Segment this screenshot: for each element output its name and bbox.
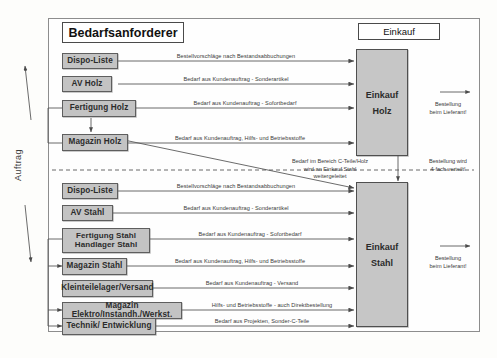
box-einkauf-stahl-line1: Einkauf	[366, 242, 399, 252]
page-title-bedarfsanforderer: Bedarfsanforderer	[62, 22, 184, 43]
node-magazin-elektro-instandhaltung[interactable]: Magazin Elektro/Instandh./Werkst.	[62, 302, 182, 319]
box-einkauf-holz-line2: Holz	[373, 106, 392, 116]
output-label-stahl-line2: beim Lieferant!	[429, 263, 466, 271]
output-label-holz: Bestellung beim Lieferant!	[429, 101, 466, 116]
edge-label-holz-1: Bestellvorschläge nach Bestandsabbuchung…	[177, 53, 295, 59]
divider-note-forwarding: Bedarf im Bereich C-Teile/Holz wird an E…	[292, 158, 368, 181]
distribution-line2: 4-fach verteilt!	[429, 166, 467, 174]
distribution-line1: Bestellung wird	[429, 158, 467, 166]
node-fertigung-holz[interactable]: Fertigung Holz	[62, 100, 136, 117]
edge-label-stahl-4: Bedarf aus Kundenauftrag, Hilfs- und Bet…	[175, 258, 305, 264]
edge-label-stahl-3: Bedarf aus Kundenauftrag - Sofortbedarf	[198, 231, 301, 237]
node-dispo-liste-holz[interactable]: Dispo-Liste	[62, 53, 118, 69]
node-av-holz[interactable]: AV Holz	[62, 76, 112, 92]
edge-label-holz-4: Bedarf aus Kundenauftrag, Hilfs- und Bet…	[175, 135, 305, 141]
node-technik-entwicklung[interactable]: Technik/ Entwicklung	[62, 318, 156, 335]
output-label-holz-line2: beim Lieferant!	[429, 109, 466, 117]
auftrag-axis-label: Auftrag	[13, 149, 23, 181]
page-title-einkauf: Einkauf	[358, 23, 440, 40]
output-label-stahl-line1: Bestellung	[429, 255, 466, 263]
node-kleinteilelager-versand[interactable]: Kleinteilelager/Versand	[62, 280, 153, 297]
edge-label-holz-3: Bedarf aus Kundenauftrag - Sofortbedarf	[193, 100, 296, 106]
node-fertigung-stahl[interactable]: Fertigung Stahl Handlager Stahl	[62, 228, 150, 253]
node-magazin-holz[interactable]: Magazin Holz	[62, 134, 128, 151]
divider-note-line3: weitergeleitet	[292, 173, 368, 181]
output-label-stahl: Bestellung beim Lieferant!	[429, 255, 466, 270]
box-einkauf-stahl-line2: Stahl	[371, 258, 393, 268]
edge-label-stahl-6: Hilfs- und Betriebsstoffe - auch Direktb…	[212, 302, 333, 308]
divider-note-line1: Bedarf im Bereich C-Teile/Holz	[292, 158, 368, 166]
edge-label-holz-2: Bedarf aus Kundenauftrag - Sonderartikel	[183, 76, 288, 82]
edge-label-stahl-7: Bedarf aus Projekten, Sonder-C-Teile	[215, 318, 309, 324]
node-magazin-stahl[interactable]: Magazin Stahl	[62, 258, 127, 275]
box-einkauf-stahl[interactable]: Einkauf Stahl	[356, 182, 408, 327]
divider-note-distribution: Bestellung wird 4-fach verteilt!	[429, 158, 467, 173]
node-av-stahl[interactable]: AV Stahl	[62, 205, 113, 221]
output-label-holz-line1: Bestellung	[429, 101, 466, 109]
diagram-canvas: Bedarfsanforderer Einkauf Auftrag Dispo-…	[0, 0, 497, 358]
edge-label-stahl-2: Bedarf aus Kundenauftrag - Sonderartikel	[183, 205, 288, 211]
node-dispo-liste-stahl[interactable]: Dispo-Liste	[62, 183, 118, 199]
divider-note-line2: wird an Einkauf Stahl	[292, 166, 368, 174]
box-einkauf-holz[interactable]: Einkauf Holz	[356, 49, 408, 156]
edge-label-stahl-1: Bestellvorschläge nach Bestandsabbuchung…	[177, 183, 295, 189]
box-einkauf-holz-line1: Einkauf	[366, 90, 399, 100]
node-fertigung-stahl-line2: Handlager Stahl	[75, 241, 137, 250]
edge-label-stahl-5: Bedarf aus Kundenauftrag - Versand	[206, 280, 299, 286]
